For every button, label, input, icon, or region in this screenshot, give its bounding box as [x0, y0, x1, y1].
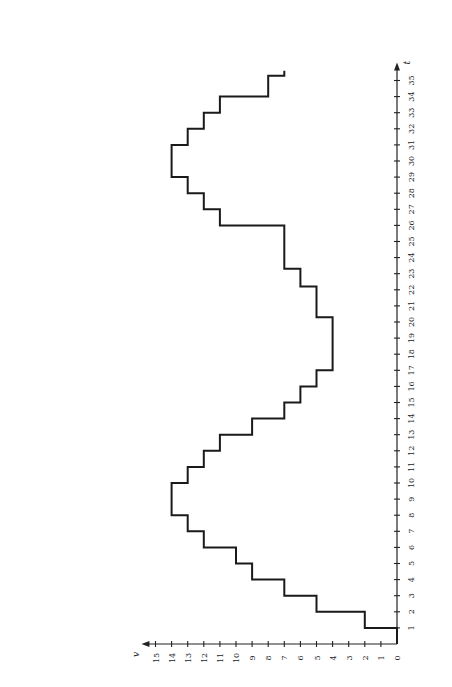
v-tick-label: 8	[264, 655, 273, 660]
v-tick-label: 7	[280, 655, 289, 660]
t-tick-label: 14	[407, 414, 416, 424]
v-axis-arrow-icon	[141, 641, 149, 647]
t-tick-label: 17	[407, 365, 416, 375]
t-tick-label: 33	[407, 108, 416, 118]
t-tick-label: 25	[407, 236, 416, 246]
t-tick-label: 12	[407, 446, 416, 456]
v-tick-label: 4	[329, 655, 338, 660]
v-tick-label: 2	[361, 655, 370, 660]
v-tick-label: 0	[393, 655, 402, 660]
t-tick-label: 32	[407, 124, 416, 134]
t-tick-label: 31	[407, 140, 416, 150]
axes: t v	[131, 60, 412, 657]
t-tick-label: 24	[407, 253, 416, 263]
t-tick-label: 2	[407, 609, 416, 614]
t-tick-label: 10	[407, 478, 416, 488]
t-tick-label: 4	[407, 577, 416, 582]
t-tick-label: 22	[407, 285, 416, 295]
t-tick-label: 21	[407, 301, 416, 311]
t-tick-label: 16	[407, 381, 416, 391]
v-axis-label: v	[131, 652, 141, 657]
t-tick-label: 19	[407, 333, 416, 343]
t-tick-label: 29	[407, 172, 416, 182]
v-tick-label: 10	[232, 653, 241, 663]
t-tick-label: 11	[407, 462, 416, 472]
t-tick-label: 30	[407, 156, 416, 166]
v-tick-label: 11	[216, 653, 225, 663]
v-tick-label: 15	[152, 653, 161, 663]
t-tick-label: 7	[407, 529, 416, 534]
step-series-line	[172, 71, 397, 644]
t-tick-label: 20	[407, 317, 416, 327]
v-tick-label: 1	[377, 655, 386, 660]
t-axis-arrow-icon	[394, 62, 400, 70]
t-tick-label: 13	[407, 430, 416, 440]
t-tick-label: 28	[407, 188, 416, 198]
t-tick-label: 5	[407, 561, 416, 566]
t-tick-label: 15	[407, 397, 416, 407]
t-tick-label: 3	[407, 593, 416, 598]
t-tick-label: 34	[407, 92, 416, 102]
t-tick-label: 6	[407, 545, 416, 550]
t-tick-label: 26	[407, 220, 416, 230]
v-tick-label: 5	[313, 655, 322, 660]
t-tick-label: 9	[407, 497, 416, 502]
v-tick-label: 12	[200, 653, 209, 663]
v-tick-label: 13	[184, 653, 193, 663]
v-tick-label: 3	[345, 655, 354, 660]
t-tick-label: 27	[407, 204, 416, 214]
t-tick-label: 23	[407, 269, 416, 279]
t-tick-label: 8	[407, 513, 416, 518]
t-tick-label: 18	[407, 349, 416, 359]
t-tick-label: 1	[407, 625, 416, 630]
t-axis-label: t	[402, 60, 412, 64]
v-tick-label: 6	[296, 655, 305, 660]
v-tick-label: 14	[168, 653, 177, 663]
t-tick-label: 35	[407, 75, 416, 85]
step-chart: t v 123456789101112131415161718192021222…	[0, 0, 452, 687]
v-tick-label: 9	[248, 655, 257, 660]
